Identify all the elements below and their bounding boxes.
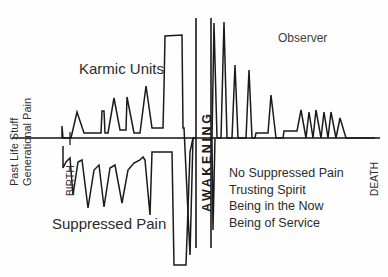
label-death: DEATH xyxy=(369,162,380,196)
list-item: Being in the Now xyxy=(229,198,344,215)
label-suppressed-pain: Suppressed Pain xyxy=(52,215,166,232)
post-awakening-list: No Suppressed Pain Trusting Spirit Being… xyxy=(229,165,344,231)
label-generational-pain: Generational Pain xyxy=(21,98,33,186)
label-observer: Observer xyxy=(278,32,327,46)
label-past-life-stuff: Past Life Stuff xyxy=(8,118,20,186)
label-birth: BIRTH xyxy=(65,165,76,196)
list-item: Being of Service xyxy=(229,215,344,232)
label-awakening: AWAKENING xyxy=(200,112,214,213)
label-karmic-units: Karmic Units xyxy=(79,60,164,77)
list-item: Trusting Spirit xyxy=(229,182,344,199)
list-item: No Suppressed Pain xyxy=(229,165,344,182)
diagram-canvas: Karmic Units Suppressed Pain Observer Pa… xyxy=(0,0,388,277)
karmic-units-chart xyxy=(0,0,388,277)
